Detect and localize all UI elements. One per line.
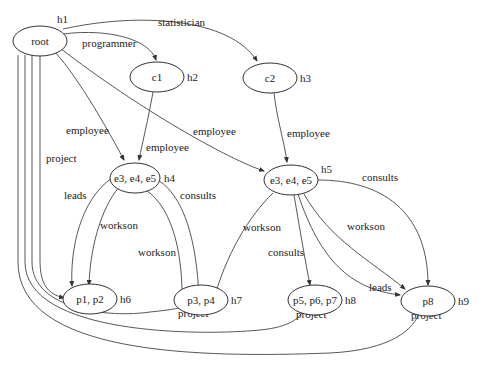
edge-label-programmer: programmer bbox=[82, 37, 137, 49]
node-tag: h9 bbox=[458, 295, 470, 307]
edge-label-project: project bbox=[46, 152, 77, 164]
edge-root-eleft bbox=[55, 52, 124, 160]
edge-label-employee: employee bbox=[66, 124, 109, 136]
edge-eleft-p12-workson bbox=[89, 187, 119, 285]
edge-label-workson: workson bbox=[347, 220, 385, 232]
node-label: root bbox=[31, 35, 49, 47]
node-c2[interactable]: c2 h3 bbox=[243, 63, 312, 93]
edge-label-consults: consults bbox=[268, 246, 304, 258]
node-label: p8 bbox=[423, 295, 435, 307]
edge-label-leads: leads bbox=[64, 189, 87, 201]
edge-eright-p34-workson bbox=[213, 193, 273, 303]
edge-label-workson: workson bbox=[100, 219, 138, 231]
edge-label-workson: workson bbox=[243, 221, 281, 233]
node-label: c2 bbox=[265, 72, 275, 84]
edge-root-p34-project bbox=[32, 55, 191, 314]
node-p567[interactable]: p5, p6, p7 h8 bbox=[288, 285, 357, 315]
node-e-left[interactable]: e3, e4, e5 h4 bbox=[110, 163, 176, 193]
node-tag: h5 bbox=[321, 163, 333, 175]
node-label: p3, p4 bbox=[187, 294, 215, 306]
edge-eright-p567-consults bbox=[294, 195, 310, 285]
edge-label-employee: employee bbox=[193, 125, 236, 137]
edge-label-consults: consults bbox=[180, 189, 216, 201]
node-root[interactable]: root h1 bbox=[13, 13, 68, 56]
edge-labels: programmer statistician employee employe… bbox=[46, 16, 442, 321]
node-p34[interactable]: p3, p4 h7 bbox=[174, 285, 243, 315]
node-label: c1 bbox=[152, 71, 162, 83]
node-e-right[interactable]: e3, e4, e5 h5 bbox=[264, 163, 333, 195]
edge-label-statistician: statistician bbox=[158, 16, 206, 28]
node-tag: h1 bbox=[57, 13, 68, 25]
node-label: p5, p6, p7 bbox=[293, 294, 338, 306]
node-tag: h3 bbox=[300, 72, 312, 84]
edge-label-employee: employee bbox=[146, 141, 189, 153]
edge-label-leads: leads bbox=[369, 281, 392, 293]
node-tag: h6 bbox=[120, 293, 132, 305]
edge-label-workson: workson bbox=[138, 246, 176, 258]
node-p12[interactable]: p1, p2 h6 bbox=[63, 284, 132, 314]
edge-c2-eright bbox=[274, 93, 287, 162]
node-tag: h7 bbox=[231, 294, 243, 306]
graph-diagram: programmer statistician employee employe… bbox=[0, 0, 482, 366]
edge-label-employee: employee bbox=[287, 127, 330, 139]
node-label: e3, e4, e5 bbox=[114, 172, 157, 184]
edge-label-consults: consults bbox=[362, 171, 398, 183]
edge-eright-p8-consults bbox=[318, 180, 428, 285]
node-p8[interactable]: p8 h9 bbox=[401, 286, 470, 316]
node-label: p1, p2 bbox=[76, 293, 104, 305]
node-tag: h4 bbox=[164, 172, 176, 184]
node-c1[interactable]: c1 h2 bbox=[130, 62, 198, 92]
node-tag: h2 bbox=[187, 71, 198, 83]
node-label: e3, e4, e5 bbox=[270, 174, 313, 186]
node-tag: h8 bbox=[345, 294, 357, 306]
edge-root-p12-project bbox=[40, 55, 64, 298]
